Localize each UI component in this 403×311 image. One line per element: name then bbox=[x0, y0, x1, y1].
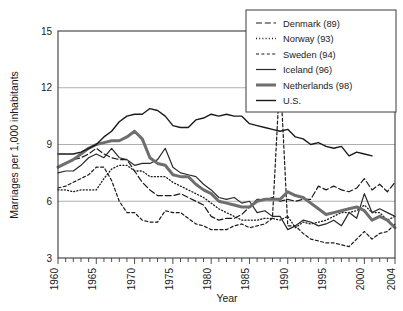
legend: Denmark (89)Norway (93)Sweden (94)Icelan… bbox=[246, 10, 396, 112]
y-tick-label: 15 bbox=[41, 26, 53, 37]
x-tick-label: 1995 bbox=[317, 268, 328, 291]
line-chart: 3691215 19601965197019751980198519901995… bbox=[0, 0, 403, 311]
x-tick-label: 2004 bbox=[386, 268, 397, 291]
legend-label: Denmark (89) bbox=[283, 19, 340, 29]
x-tick-label: 1965 bbox=[87, 268, 98, 291]
x-tick-label: 1975 bbox=[164, 268, 175, 291]
legend-label: Sweden (94) bbox=[283, 50, 336, 60]
x-axis-title: Year bbox=[216, 292, 238, 304]
y-axis-title: Marriages per 1,000 inhabitants bbox=[8, 71, 20, 219]
legend-label: Iceland (96) bbox=[283, 65, 332, 75]
chart-container: 3691215 19601965197019751980198519901995… bbox=[0, 0, 403, 311]
y-tick-label: 9 bbox=[46, 139, 52, 150]
x-tick-label: 1980 bbox=[202, 268, 213, 291]
legend-label: Norway (93) bbox=[283, 34, 334, 44]
y-tick-label: 3 bbox=[46, 253, 52, 264]
legend-label: U.S. bbox=[283, 96, 301, 106]
x-tick-label: 1960 bbox=[49, 268, 60, 291]
legend-label: Netherlands (98) bbox=[283, 81, 352, 91]
x-tick-label: 1990 bbox=[279, 268, 290, 291]
x-tick-label: 2000 bbox=[355, 268, 366, 291]
x-tick-label: 1970 bbox=[126, 268, 137, 291]
y-tick-label: 6 bbox=[46, 196, 52, 207]
y-tick-label: 12 bbox=[41, 82, 53, 93]
x-tick-label: 1985 bbox=[240, 268, 251, 291]
